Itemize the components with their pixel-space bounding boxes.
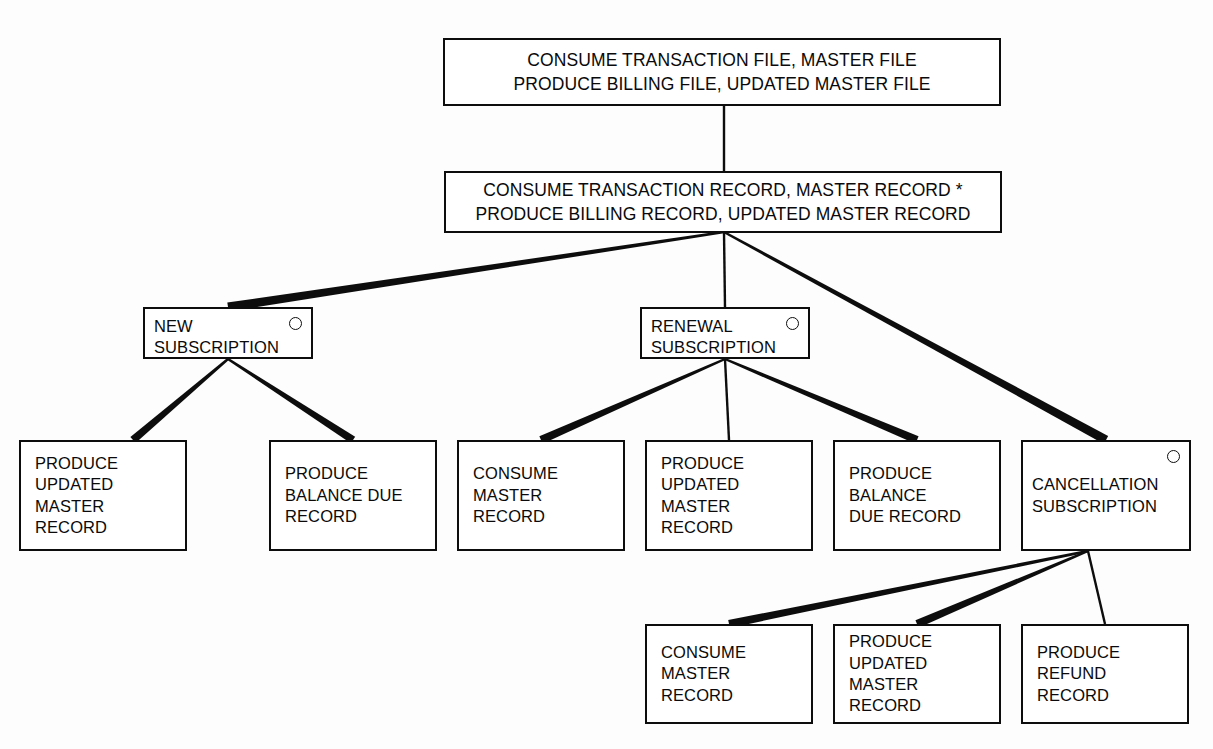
node-renewal-consume-master-record[interactable]: CONSUMEMASTERRECORD (457, 440, 625, 551)
loop-circle-icon (1167, 450, 1180, 463)
node-text-line: PRODUCE BILLING RECORD, UPDATED MASTER R… (475, 202, 970, 226)
node-text-line: SUBSCRIPTION (1032, 496, 1189, 517)
connector-cancel-to-leaf1 (728, 550, 1088, 628)
connector-renewal-to-leaf3 (725, 358, 919, 444)
node-text-line: PRODUCE (661, 453, 811, 474)
node-text-line: MASTER (473, 485, 623, 506)
node-text-line: RECORD (661, 685, 811, 706)
node-text-line: RENEWAL (651, 316, 808, 337)
node-text-line: CONSUME TRANSACTION RECORD, MASTER RECOR… (483, 178, 962, 202)
connector-level2-to-renewal (724, 232, 725, 307)
node-text-line: CONSUME TRANSACTION FILE, MASTER FILE (527, 48, 916, 72)
node-text-line: MASTER (35, 496, 185, 517)
node-text-line: MASTER (661, 663, 811, 684)
loop-circle-icon (786, 317, 799, 330)
node-renewal-produce-updated-master-record[interactable]: PRODUCEUPDATEDMASTERRECORD (645, 440, 813, 551)
node-renewal-subscription[interactable]: RENEWAL SUBSCRIPTION (640, 307, 810, 359)
connector-new-to-leaf1 (130, 358, 228, 443)
node-text-line: PRODUCE BILLING FILE, UPDATED MASTER FIL… (513, 72, 930, 96)
node-text-line: NEW (154, 316, 311, 337)
node-text-line: BALANCE DUE (285, 485, 435, 506)
connector-cancel-to-leaf3 (1088, 551, 1105, 624)
node-text-line: RECORD (661, 517, 811, 538)
node-text-line: RECORD (1037, 685, 1187, 706)
node-consume-transaction-record[interactable]: CONSUME TRANSACTION RECORD, MASTER RECOR… (444, 171, 1002, 233)
node-text-line: PRODUCE (849, 631, 999, 652)
connector-level2-to-new (227, 231, 724, 312)
node-new-produce-updated-master-record[interactable]: PRODUCEUPDATEDMASTERRECORD (19, 440, 187, 551)
node-text-line: RECORD (849, 695, 999, 716)
node-text-line: DUE RECORD (849, 506, 999, 527)
node-cancel-produce-updated-master-record[interactable]: PRODUCEUPDATEDMASTERRECORD (833, 624, 1001, 724)
node-text-line: PRODUCE (285, 463, 435, 484)
connector-new-to-leaf2 (227, 358, 355, 443)
node-text-line: SUBSCRIPTION (154, 337, 311, 358)
loop-circle-icon (289, 317, 302, 330)
node-text-line: UPDATED (661, 474, 811, 495)
node-text-line: UPDATED (35, 474, 185, 495)
structure-chart-canvas: CONSUME TRANSACTION FILE, MASTER FILE PR… (0, 0, 1213, 749)
node-consume-transaction-file[interactable]: CONSUME TRANSACTION FILE, MASTER FILE PR… (443, 38, 1001, 106)
node-text-line: PRODUCE (849, 463, 999, 484)
node-new-produce-balance-due-record[interactable]: PRODUCEBALANCE DUERECORD (269, 440, 437, 551)
node-text-line: CONSUME (473, 463, 623, 484)
node-cancel-consume-master-record[interactable]: CONSUMEMASTERRECORD (645, 624, 813, 724)
node-text-line: PRODUCE (1037, 642, 1187, 663)
connector-cancel-to-leaf2 (915, 550, 1088, 628)
node-text-line: PRODUCE (35, 453, 185, 474)
node-text-line: MASTER (849, 674, 999, 695)
node-text-line: RECORD (285, 506, 435, 527)
node-text-line: BALANCE (849, 485, 999, 506)
node-new-subscription[interactable]: NEW SUBSCRIPTION (143, 307, 313, 359)
node-text-line: UPDATED (849, 653, 999, 674)
node-text-line: REFUND (1037, 663, 1187, 684)
node-text-line: MASTER (661, 496, 811, 517)
node-text-line: CANCELLATION (1032, 474, 1189, 495)
node-cancel-produce-refund-record[interactable]: PRODUCEREFUNDRECORD (1021, 624, 1189, 724)
node-renewal-produce-balance-due-record[interactable]: PRODUCEBALANCEDUE RECORD (833, 440, 1001, 551)
node-text-line: RECORD (473, 506, 623, 527)
connector-renewal-to-leaf1 (539, 358, 725, 444)
node-cancellation-subscription[interactable]: CANCELLATION SUBSCRIPTION (1021, 440, 1191, 551)
node-text-line: CONSUME (661, 642, 811, 663)
node-text-line: RECORD (35, 517, 185, 538)
connector-renewal-to-leaf2 (725, 359, 729, 440)
node-text-line: SUBSCRIPTION (651, 337, 808, 358)
